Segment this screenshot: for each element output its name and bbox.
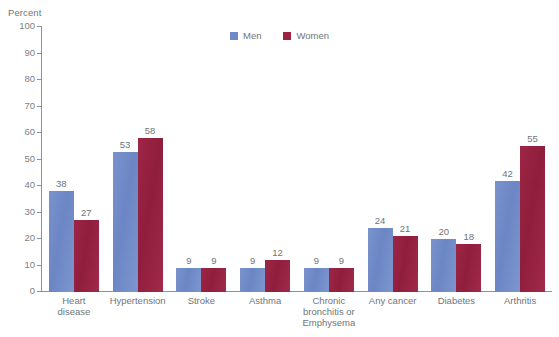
- y-tick-mark: [37, 291, 41, 292]
- bar-women[interactable]: 21: [393, 236, 418, 292]
- y-tick-label: 90: [24, 47, 35, 58]
- bar-value-label: 20: [439, 226, 450, 237]
- x-axis-labels: HeartdiseaseHypertensionStrokeAsthmaChro…: [42, 295, 552, 328]
- bar-women[interactable]: 9: [329, 268, 354, 292]
- plot-area: 1009080706050403020100 38275358999129924…: [41, 26, 552, 292]
- bar-women[interactable]: 12: [265, 260, 290, 292]
- bar-value-label: 9: [211, 255, 216, 266]
- y-tick-label: 70: [24, 100, 35, 111]
- bar-value-label: 27: [81, 207, 92, 218]
- bar-groups: 382753589991299242120184255: [42, 26, 552, 292]
- y-tick-label: 30: [24, 206, 35, 217]
- y-tick-mark: [37, 159, 41, 160]
- bar-group: 99: [297, 26, 361, 292]
- bar-women[interactable]: 55: [520, 146, 545, 292]
- bar-value-label: 9: [339, 255, 344, 266]
- y-tick-mark: [37, 185, 41, 186]
- bar-men[interactable]: 53: [113, 152, 138, 292]
- bar-men[interactable]: 20: [431, 239, 456, 292]
- y-tick-label: 40: [24, 179, 35, 190]
- y-tick-label: 20: [24, 232, 35, 243]
- y-tick-label: 100: [19, 20, 35, 31]
- bar-men[interactable]: 24: [368, 228, 393, 292]
- y-tick-mark: [37, 265, 41, 266]
- bar-group: 2421: [361, 26, 425, 292]
- x-axis-label: Arthritis: [488, 295, 552, 328]
- bar-chart: Percent Men Women 1009080706050403020100…: [0, 0, 559, 337]
- bar-value-label: 9: [250, 255, 255, 266]
- bar-men[interactable]: 9: [176, 268, 201, 292]
- bar-group: 5358: [106, 26, 170, 292]
- y-tick-mark: [37, 106, 41, 107]
- x-axis-label: Diabetes: [425, 295, 489, 328]
- x-axis-label: Hypertension: [106, 295, 170, 328]
- bar-women[interactable]: 18: [456, 244, 481, 292]
- bar-women[interactable]: 9: [201, 268, 226, 292]
- bar-group: 2018: [425, 26, 489, 292]
- bar-women[interactable]: 27: [74, 220, 99, 292]
- bar-group: 99: [170, 26, 234, 292]
- bar-value-label: 24: [375, 215, 386, 226]
- y-tick-mark: [37, 212, 41, 213]
- bar-value-label: 9: [186, 255, 191, 266]
- bar-value-label: 38: [56, 178, 67, 189]
- y-tick-mark: [37, 53, 41, 54]
- bar-men[interactable]: 9: [304, 268, 329, 292]
- x-axis-label: Chronicbronchitis orEmphysema: [297, 295, 361, 328]
- bar-value-label: 9: [314, 255, 319, 266]
- bar-group: 4255: [488, 26, 552, 292]
- bar-men[interactable]: 9: [240, 268, 265, 292]
- bar-value-label: 18: [464, 231, 475, 242]
- bar-group: 3827: [42, 26, 106, 292]
- y-tick-mark: [37, 26, 41, 27]
- bar-value-label: 58: [145, 125, 156, 136]
- y-tick-mark: [37, 238, 41, 239]
- y-tick-label: 0: [30, 285, 35, 296]
- y-axis-title: Percent: [8, 7, 41, 18]
- y-tick-label: 80: [24, 73, 35, 84]
- bar-value-label: 21: [400, 223, 411, 234]
- y-tick-label: 50: [24, 153, 35, 164]
- bar-men[interactable]: 38: [49, 191, 74, 292]
- y-tick-mark: [37, 132, 41, 133]
- y-tick-label: 60: [24, 126, 35, 137]
- bar-value-label: 53: [120, 139, 131, 150]
- bar-value-label: 55: [527, 133, 538, 144]
- x-axis-label: Heartdisease: [42, 295, 106, 328]
- x-axis-label: Asthma: [233, 295, 297, 328]
- y-tick-label: 10: [24, 259, 35, 270]
- bar-women[interactable]: 58: [138, 138, 163, 292]
- bar-men[interactable]: 42: [495, 181, 520, 292]
- x-axis-label: Any cancer: [361, 295, 425, 328]
- bar-group: 912: [233, 26, 297, 292]
- x-axis-label: Stroke: [170, 295, 234, 328]
- y-tick-mark: [37, 79, 41, 80]
- bar-value-label: 12: [272, 247, 283, 258]
- bar-value-label: 42: [502, 168, 513, 179]
